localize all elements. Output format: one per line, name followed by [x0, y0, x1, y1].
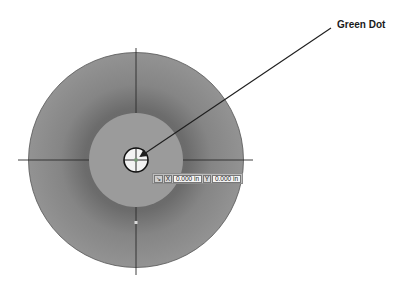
target-drawing: [0, 0, 396, 288]
snap-icon[interactable]: ↘: [154, 175, 163, 183]
x-axis-label: X: [164, 175, 172, 183]
y-value-field[interactable]: 0.000 in: [212, 175, 241, 183]
green-dot-icon[interactable]: [134, 158, 138, 162]
diagram-canvas: Green Dot ↘ X 0.000 in Y 0.000 in: [0, 0, 396, 288]
marker-dot-icon: [135, 221, 138, 224]
x-value-field[interactable]: 0.000 in: [173, 175, 202, 183]
coordinate-readout: ↘ X 0.000 in Y 0.000 in: [152, 173, 243, 184]
callout-label: Green Dot: [337, 19, 385, 30]
y-axis-label: Y: [203, 175, 211, 183]
